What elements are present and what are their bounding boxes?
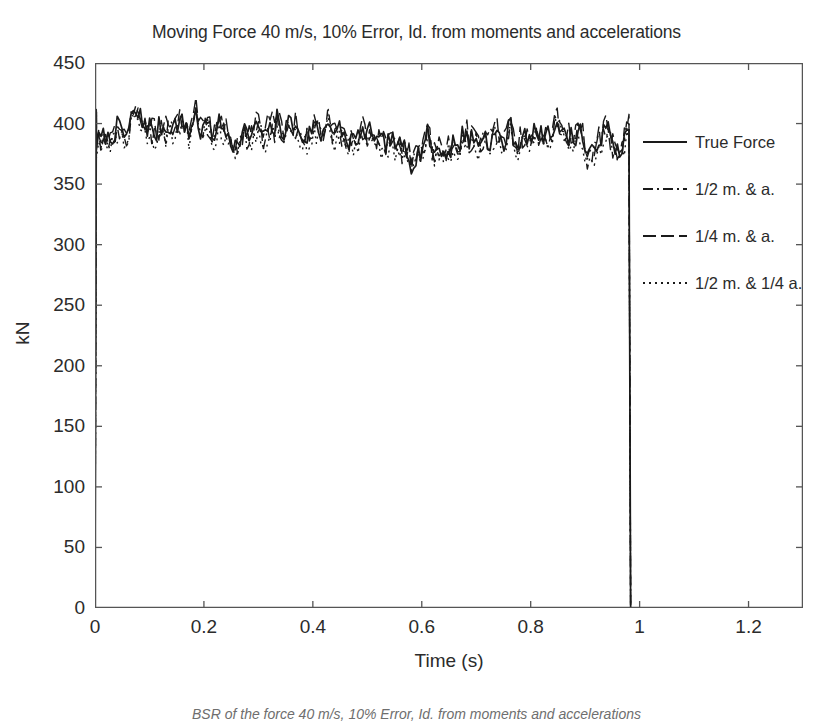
legend-line-sample-dashed [642, 229, 688, 243]
y-tick-label: 200 [25, 355, 85, 377]
x-axis-title: Time (s) [95, 650, 803, 672]
chart-title: Moving Force 40 m/s, 10% Error, Id. from… [0, 22, 833, 43]
x-tick-label: 1.2 [714, 616, 784, 638]
y-tick-label: 350 [25, 173, 85, 195]
chart-legend: True Force1/2 m. & a.1/4 m. & a.1/2 m. &… [642, 131, 804, 293]
y-axis-title: kN [12, 313, 34, 353]
y-tick-label: 50 [25, 536, 85, 558]
legend-item-label: 1/2 m. & 1/4 a. [695, 274, 802, 293]
x-tick-label: 0.4 [278, 616, 348, 638]
legend-item[interactable]: 1/2 m. & a. [642, 178, 775, 200]
y-tick-label: 150 [25, 415, 85, 437]
legend-item[interactable]: 1/2 m. & 1/4 a. [642, 272, 802, 294]
y-tick-label: 300 [25, 234, 85, 256]
legend-line-sample-dashdot [642, 182, 688, 196]
x-tick-label: 0 [60, 616, 130, 638]
legend-item-label: True Force [695, 133, 775, 152]
x-axis-tick-labels: 00.20.40.60.811.2 [95, 616, 803, 642]
y-tick-label: 250 [25, 294, 85, 316]
legend-item[interactable]: True Force [642, 131, 775, 153]
y-tick-label: 100 [25, 476, 85, 498]
y-tick-label: 450 [25, 52, 85, 74]
legend-line-sample-dotted [642, 276, 688, 290]
legend-item-label: 1/2 m. & a. [695, 180, 775, 199]
x-tick-label: 0.8 [496, 616, 566, 638]
x-tick-label: 0.2 [169, 616, 239, 638]
figure-container: Moving Force 40 m/s, 10% Error, Id. from… [0, 0, 833, 724]
legend-item[interactable]: 1/4 m. & a. [642, 225, 775, 247]
x-tick-label: 1 [605, 616, 675, 638]
legend-item-label: 1/4 m. & a. [695, 227, 775, 246]
y-tick-label: 400 [25, 113, 85, 135]
x-tick-label: 0.6 [387, 616, 457, 638]
legend-line-sample-solid [642, 135, 688, 149]
figure-caption: BSR of the force 40 m/s, 10% Error, Id. … [0, 706, 833, 722]
